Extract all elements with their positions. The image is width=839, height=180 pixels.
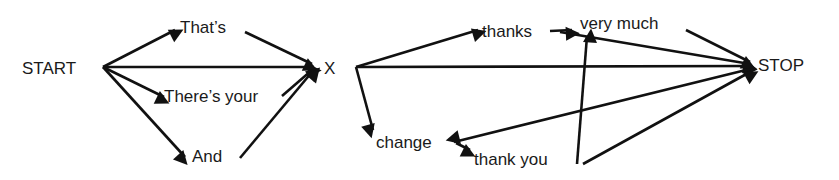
edge-thats-to-x bbox=[245, 32, 312, 64]
edge-start-to-thats bbox=[103, 30, 175, 67]
node-thats: That’s bbox=[180, 18, 226, 37]
nodes: STARTThat’sThere’s yourAndXthanksvery mu… bbox=[22, 14, 804, 169]
node-x: X bbox=[324, 59, 335, 78]
node-and: And bbox=[192, 147, 222, 166]
phrase-graph-diagram: STARTThat’sThere’s yourAndXthanksvery mu… bbox=[0, 0, 839, 180]
edge-start-to-and bbox=[103, 67, 185, 157]
node-thanks: thanks bbox=[482, 22, 532, 41]
node-change: change bbox=[376, 133, 432, 152]
edge-change-to-thank-you bbox=[456, 143, 470, 150]
edge-very-much-to-stop bbox=[686, 30, 750, 62]
edge-x-to-change bbox=[356, 67, 373, 130]
edge-thanks-to-very-much bbox=[550, 30, 572, 31]
node-start: START bbox=[22, 59, 76, 78]
edge-theres-your-to-x bbox=[282, 70, 312, 96]
edge-x-to-stop bbox=[356, 66, 750, 67]
edge-start-to-theres-your bbox=[103, 67, 164, 97]
edge-thank-you-to-stop bbox=[583, 72, 750, 164]
edge-and-to-x bbox=[240, 72, 312, 158]
edge-stop-to-change bbox=[454, 69, 750, 142]
node-very-much: very much bbox=[580, 14, 658, 33]
edge-x-to-thanks bbox=[356, 30, 478, 67]
node-thank-you: thank you bbox=[474, 150, 548, 169]
node-theres-your: There’s your bbox=[164, 87, 259, 106]
node-stop: STOP bbox=[758, 56, 804, 75]
edge-thank-you-to-very-much bbox=[577, 36, 587, 164]
